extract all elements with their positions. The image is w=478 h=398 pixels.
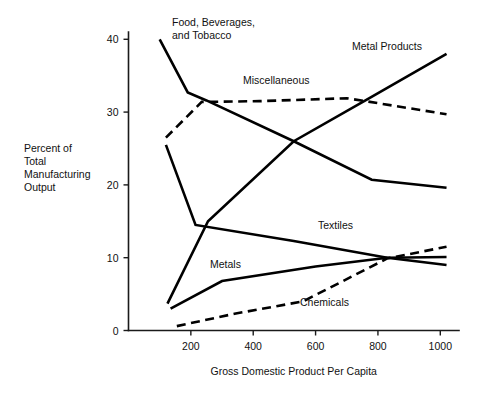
series-label-metal-products: Metal Products: [352, 40, 422, 52]
chart-page: 010203040 2004006008001000 Food, Beverag…: [0, 0, 478, 398]
y-tick-label: 20: [107, 179, 119, 191]
series-label-line: and Tobacco: [172, 29, 232, 41]
series-label-food-beverages-and-tobacco: Food, Beverages,and Tobacco: [172, 16, 255, 41]
chart-series-labels: Food, Beverages,and TobaccoMetal Product…: [172, 16, 422, 308]
x-tick-label: 800: [369, 340, 387, 352]
series-label-line: Metal Products: [352, 40, 422, 52]
y-axis-tick-labels: 010203040: [107, 33, 119, 336]
y-axis-title-line: Output: [24, 181, 56, 193]
y-axis-title-line: Manufacturing: [24, 168, 91, 180]
series-label-line: Metals: [210, 258, 241, 270]
x-axis-tick-labels: 2004006008001000: [182, 340, 452, 352]
x-tick-label: 1000: [429, 340, 453, 352]
x-tick-label: 400: [244, 340, 262, 352]
series-label-line: Textiles: [318, 219, 353, 231]
y-axis-title-line: Total: [24, 155, 46, 167]
series-line-textiles: [166, 145, 447, 265]
y-tick-label: 30: [107, 106, 119, 118]
series-label-line: Miscellaneous: [243, 74, 310, 86]
series-label-metals: Metals: [210, 258, 241, 270]
series-label-miscellaneous: Miscellaneous: [243, 74, 310, 86]
y-tick-label: 40: [107, 33, 119, 45]
line-chart: 010203040 2004006008001000 Food, Beverag…: [0, 0, 478, 398]
y-axis-title-text: Percent ofTotalManufacturingOutput: [24, 142, 91, 193]
series-line-miscellaneous: [166, 98, 447, 137]
series-label-textiles: Textiles: [318, 219, 353, 231]
y-tick-label: 0: [113, 325, 119, 337]
x-axis-title-text: Gross Domestic Product Per Capita: [211, 365, 377, 377]
series-label-line: Food, Beverages,: [172, 16, 255, 28]
x-tick-label: 200: [182, 340, 200, 352]
x-axis-title: Gross Domestic Product Per Capita: [211, 365, 377, 377]
series-label-line: Chemicals: [300, 296, 349, 308]
y-tick-label: 10: [107, 252, 119, 264]
y-axis-title: Percent ofTotalManufacturingOutput: [24, 142, 91, 193]
series-line-food-beverages-and-tobacco: [160, 39, 447, 188]
x-tick-label: 600: [307, 340, 325, 352]
series-label-chemicals: Chemicals: [300, 296, 349, 308]
y-axis-title-line: Percent of: [24, 142, 72, 154]
